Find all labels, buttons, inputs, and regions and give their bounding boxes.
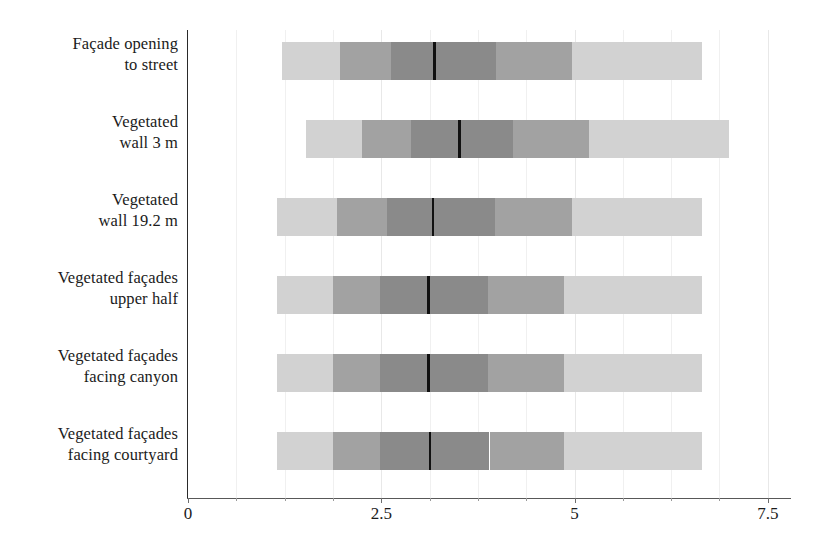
bar-segment <box>428 276 488 314</box>
gridline-major <box>575 30 576 498</box>
gridline-minor <box>719 30 720 498</box>
bar-row[interactable] <box>188 432 791 470</box>
bar-segment <box>333 354 381 392</box>
bar-segment <box>391 42 435 80</box>
bar-segment <box>459 120 512 158</box>
median-marker <box>433 42 435 80</box>
bar-segment <box>277 276 333 314</box>
gridline-minor <box>671 30 672 498</box>
category-label: Vegetated façades facing canyon <box>0 345 178 387</box>
gridline-major <box>381 30 382 498</box>
gridline-minor <box>236 30 237 498</box>
bar-segment <box>572 42 702 80</box>
x-tick-minor <box>430 498 431 501</box>
bar-segment <box>277 432 333 470</box>
bar-segment <box>490 432 564 470</box>
bar-segment <box>380 276 428 314</box>
gridline-minor <box>623 30 624 498</box>
bar-segment <box>428 354 488 392</box>
gridline-minor <box>526 30 527 498</box>
chart-container: Façade opening to street Vegetated wall … <box>0 0 831 545</box>
bar-segment <box>564 276 702 314</box>
x-tick-label: 7.5 <box>757 504 778 524</box>
x-tick-label: 5 <box>570 504 579 524</box>
bar-segment <box>496 42 572 80</box>
bar-segment <box>337 198 387 236</box>
bar-segment <box>411 120 459 158</box>
x-tick <box>768 498 769 503</box>
median-marker <box>427 276 429 314</box>
x-tick <box>575 498 576 503</box>
bar-segment <box>306 120 362 158</box>
gridline-minor <box>285 30 286 498</box>
x-tick-minor <box>671 498 672 501</box>
category-label: Vegetated wall 3 m <box>0 111 178 153</box>
y-axis-line <box>187 30 188 498</box>
bar-segment <box>333 276 381 314</box>
x-tick-label: 2.5 <box>371 504 392 524</box>
gridline-minor <box>430 30 431 498</box>
bar-row[interactable] <box>188 42 791 80</box>
bar-row[interactable] <box>188 198 791 236</box>
bar-segment <box>340 42 391 80</box>
median-marker <box>427 354 429 392</box>
x-tick <box>188 498 189 503</box>
bar-segment <box>430 432 490 470</box>
plot-area: 02.557.5 <box>188 30 791 498</box>
x-tick-minor <box>526 498 527 501</box>
bar-segment <box>387 198 433 236</box>
category-label: Vegetated wall 19.2 m <box>0 189 178 231</box>
category-axis-labels: Façade opening to street Vegetated wall … <box>0 0 186 498</box>
x-tick <box>381 498 382 503</box>
bar-row[interactable] <box>188 120 791 158</box>
bar-segment <box>435 42 497 80</box>
bar-segment <box>488 354 564 392</box>
bar-segment <box>333 432 381 470</box>
bar-segment <box>282 42 340 80</box>
bar-row[interactable] <box>188 354 791 392</box>
x-tick-minor <box>236 498 237 501</box>
category-label: Vegetated façades upper half <box>0 267 178 309</box>
median-marker <box>458 120 460 158</box>
bar-segment <box>564 354 702 392</box>
gridline-major <box>768 30 769 498</box>
bar-segment <box>433 198 495 236</box>
x-tick-minor <box>285 498 286 501</box>
median-marker <box>432 198 434 236</box>
bar-segment <box>277 198 337 236</box>
bar-row[interactable] <box>188 276 791 314</box>
bar-segment <box>380 354 428 392</box>
median-marker <box>429 432 431 470</box>
bar-segment <box>513 120 590 158</box>
x-tick-minor <box>333 498 334 501</box>
bar-segment <box>380 432 429 470</box>
bar-segment <box>495 198 572 236</box>
bar-segment <box>564 432 702 470</box>
bar-segment <box>362 120 411 158</box>
bar-segment <box>277 354 333 392</box>
category-label: Vegetated façades facing courtyard <box>0 423 178 465</box>
x-tick-minor <box>719 498 720 501</box>
category-label: Façade opening to street <box>0 33 178 75</box>
bar-segment <box>572 198 702 236</box>
gridline-minor <box>478 30 479 498</box>
bar-segment <box>488 276 564 314</box>
bar-segment <box>589 120 729 158</box>
x-tick-label: 0 <box>184 504 193 524</box>
x-tick-minor <box>623 498 624 501</box>
x-tick-minor <box>478 498 479 501</box>
x-axis-line <box>187 498 791 499</box>
gridline-minor <box>333 30 334 498</box>
